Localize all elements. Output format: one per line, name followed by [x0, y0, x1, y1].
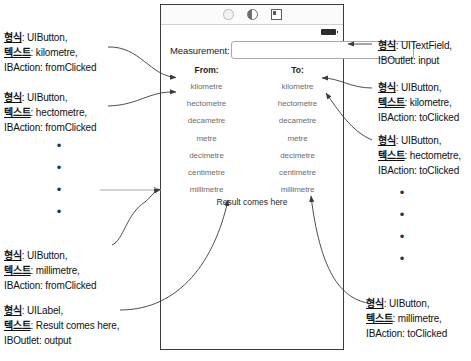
annotation-line-3: IBAction: toClicked — [378, 163, 461, 178]
square-icon[interactable] — [271, 9, 282, 20]
annotation-value: : UIButton, — [396, 135, 442, 146]
annotation-line-3: IBAction: toClicked — [366, 326, 447, 341]
ellipsis-dot: • — [52, 135, 66, 157]
half-circle-icon[interactable] — [247, 9, 258, 20]
status-bar — [161, 25, 343, 38]
from-unit-centimetre[interactable]: centimetre — [161, 168, 252, 177]
from-unit-decimetre[interactable]: decimetre — [161, 151, 252, 160]
annotation-key: 형식 — [4, 92, 22, 103]
annotation-value: : kilometre, — [405, 97, 452, 108]
annotation-line-3: IBAction: fromClicked — [4, 278, 96, 293]
annotation-value: : UIButton, — [384, 298, 430, 309]
annotation-line-3: IBAction: toClicked — [378, 110, 459, 125]
from-unit-decametre[interactable]: decametre — [161, 116, 252, 125]
unit-columns: From: kilometre hectometre decametre met… — [161, 65, 343, 202]
ellipsis-right: • • • • — [395, 182, 409, 270]
annotation-key: 텍스트 — [4, 265, 31, 276]
ellipsis-dot: • — [395, 248, 409, 270]
annotation-line-1: 형식: UIButton, — [4, 30, 96, 45]
ellipsis-left: • • • • — [52, 135, 66, 223]
annotation-key: 텍스트 — [378, 150, 405, 161]
annotation-key: 형식 — [378, 40, 396, 51]
annotation-value: : UIButton, — [22, 92, 68, 103]
to-unit-hectometre[interactable]: hectometre — [252, 99, 343, 108]
ellipsis-dot: • — [395, 226, 409, 248]
to-unit-decametre[interactable]: decametre — [252, 116, 343, 125]
annotation-value: : Result comes here, — [31, 320, 120, 331]
annotation-line-2: 텍스트: Result comes here, — [4, 318, 119, 333]
to-unit-kilometre[interactable]: kilometre — [252, 82, 343, 91]
ellipsis-dot: • — [52, 179, 66, 201]
to-column: To: kilometre hectometre decametre metre… — [252, 65, 343, 202]
annotation-line-1: 형식: UIButton, — [4, 248, 96, 263]
from-header: From: — [161, 65, 252, 75]
annotation-line-1: 형식: UIButton, — [366, 296, 447, 311]
annotation-to-hectometre: 형식: UIButton, 텍스트: hectometre, IBAction:… — [378, 133, 461, 178]
annotation-key: 형식 — [4, 250, 22, 261]
annotation-value: : hectometre, — [31, 107, 87, 118]
annotation-value: : UIButton, — [22, 32, 68, 43]
annotation-key: 텍스트 — [4, 47, 31, 58]
annotation-line-1: 형식: UIButton, — [378, 80, 459, 95]
annotation-to-millimetre: 형식: UIButton, 텍스트: millimetre, IBAction:… — [366, 296, 447, 341]
annotation-input-textfield: 형식: UITextField, IBOutlet: input — [378, 38, 452, 68]
annotation-line-3: IBOutlet: output — [4, 333, 119, 348]
ellipsis-dot: • — [52, 157, 66, 179]
annotation-line-1: 형식: UILabel, — [4, 303, 119, 318]
circle-icon[interactable] — [223, 9, 234, 20]
leader-from-millimetre-tip — [145, 190, 160, 203]
annotation-line-3: IBAction: fromClicked — [4, 120, 96, 135]
annotation-key: 텍스트 — [4, 320, 31, 331]
annotation-from-kilometre: 형식: UIButton, 텍스트: kilometre, IBAction: … — [4, 30, 96, 75]
device-toolbar — [161, 5, 343, 25]
annotation-key: 형식 — [366, 298, 384, 309]
to-unit-centimetre[interactable]: centimetre — [252, 168, 343, 177]
annotation-line-1: 형식: UIButton, — [4, 90, 96, 105]
to-unit-millimetre[interactable]: millimetre — [252, 185, 343, 194]
annotation-to-kilometre: 형식: UIButton, 텍스트: kilometre, IBAction: … — [378, 80, 459, 125]
to-unit-metre[interactable]: metre — [252, 134, 343, 143]
annotation-key: 형식 — [378, 82, 396, 93]
annotation-line-2: 텍스트: hectometre, — [378, 148, 461, 163]
ellipsis-dot: • — [395, 204, 409, 226]
annotation-value: : millimetre, — [31, 265, 80, 276]
measurement-row: Measurement: — [170, 41, 335, 59]
leader-from-millimetre — [112, 202, 145, 245]
annotation-line-2: 텍스트: kilometre, — [378, 95, 459, 110]
annotation-line-1: 형식: UIButton, — [378, 133, 461, 148]
to-unit-decimetre[interactable]: decimetre — [252, 151, 343, 160]
to-header: To: — [252, 65, 343, 75]
annotation-value: : hectometre, — [405, 150, 461, 161]
battery-icon — [321, 29, 336, 35]
from-unit-hectometre[interactable]: hectometre — [161, 99, 252, 108]
annotation-value: : kilometre, — [31, 47, 78, 58]
annotation-line-2: 텍스트: millimetre, — [4, 263, 96, 278]
annotation-from-millimetre: 형식: UIButton, 텍스트: millimetre, IBAction:… — [4, 248, 96, 293]
annotation-key: 형식 — [378, 135, 396, 146]
annotation-line-3: IBOutlet: input — [378, 53, 452, 68]
annotation-line-2: 텍스트: kilometre, — [4, 45, 96, 60]
annotation-line-2: 텍스트: hectometre, — [4, 105, 96, 120]
annotation-key: 텍스트 — [378, 97, 405, 108]
annotation-value: : UIButton, — [22, 250, 68, 261]
annotation-key: 텍스트 — [4, 107, 31, 118]
annotated-ui-mockup: Measurement: From: kilometre hectometre … — [0, 0, 471, 361]
annotation-key: 형식 — [4, 305, 22, 316]
annotation-line-2: 텍스트: millimetre, — [366, 311, 447, 326]
annotation-key: 형식 — [4, 32, 22, 43]
annotation-from-hectometre: 형식: UIButton, 텍스트: hectometre, IBAction:… — [4, 90, 96, 135]
ellipsis-dot: • — [395, 182, 409, 204]
ellipsis-dot: • — [52, 201, 66, 223]
from-unit-kilometre[interactable]: kilometre — [161, 82, 252, 91]
from-unit-millimetre[interactable]: millimetre — [161, 185, 252, 194]
annotation-value: : UIButton, — [396, 82, 442, 93]
annotation-value: : millimetre, — [393, 313, 442, 324]
annotation-value: : UILabel, — [22, 305, 63, 316]
annotation-line-1: 형식: UITextField, — [378, 38, 452, 53]
measurement-label: Measurement: — [170, 45, 230, 56]
annotation-line-3: IBAction: fromClicked — [4, 60, 96, 75]
annotation-value: : UITextField, — [396, 40, 452, 51]
from-column: From: kilometre hectometre decametre met… — [161, 65, 252, 202]
from-unit-metre[interactable]: metre — [161, 134, 252, 143]
result-output-label: Result comes here — [161, 197, 343, 207]
